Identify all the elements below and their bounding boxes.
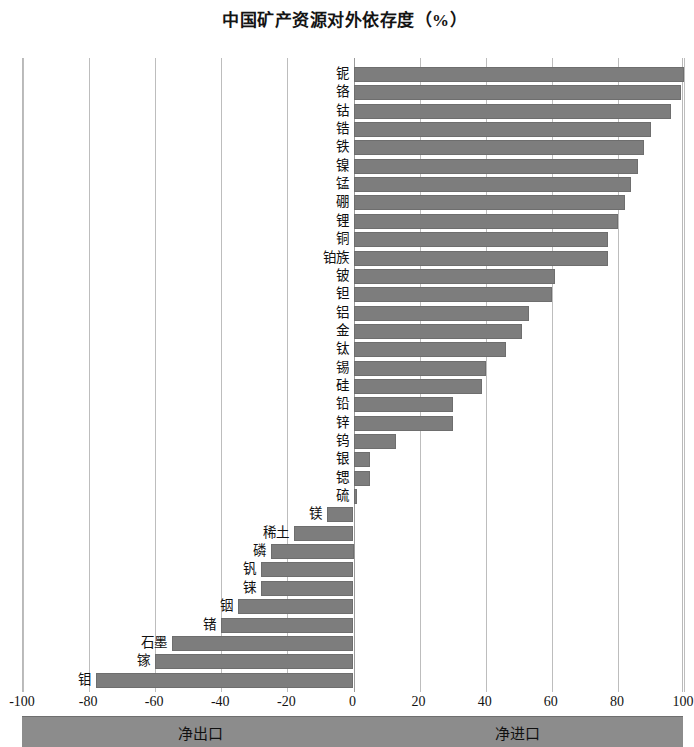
bar-row: 镓 [23, 654, 682, 669]
bar-row: 铜 [23, 232, 682, 247]
category-label: 磷 [253, 541, 266, 560]
bar-row: 钨 [23, 434, 682, 449]
bar [155, 654, 353, 669]
bar [354, 140, 645, 155]
x-axis-tick: -80 [79, 694, 98, 710]
bar [354, 122, 651, 137]
x-axis-tick: 80 [610, 694, 624, 710]
bar-row: 钒 [23, 562, 682, 577]
bar [354, 361, 486, 376]
category-label: 锶 [336, 468, 349, 487]
plot-area: 铌铬钴锆铁镍锰硼锂铜铂族铍钽铝金钛锡硅铅锌钨银锶硫镁稀土磷钒铼铟锗石墨镓钼 [22, 58, 683, 692]
category-label: 锆 [336, 119, 349, 138]
category-label: 铝 [336, 303, 349, 322]
category-label: 石墨 [141, 633, 167, 652]
bar-row: 铂族 [23, 251, 682, 266]
bar [354, 452, 371, 467]
bar-row: 钼 [23, 673, 682, 688]
bar [354, 397, 453, 412]
bar-row: 石墨 [23, 636, 682, 651]
bar-row: 铼 [23, 581, 682, 596]
bar-row: 铬 [23, 85, 682, 100]
x-axis-tick: 0 [349, 694, 356, 710]
bar [354, 434, 397, 449]
bar [354, 471, 371, 486]
bar-row: 硅 [23, 379, 682, 394]
category-label: 铬 [336, 82, 349, 101]
category-label: 银 [336, 449, 349, 468]
category-label: 钛 [336, 339, 349, 358]
category-label: 钨 [336, 431, 349, 450]
bar-row: 银 [23, 452, 682, 467]
category-label: 铼 [243, 578, 256, 597]
bar [354, 67, 685, 82]
bar-row: 铁 [23, 140, 682, 155]
bar [354, 489, 357, 504]
bar-row: 锆 [23, 122, 682, 137]
bar [327, 507, 353, 522]
category-label: 稀土 [263, 523, 289, 542]
bar-row: 锰 [23, 177, 682, 192]
x-axis-tick: -20 [277, 694, 296, 710]
bar [271, 544, 354, 559]
bar-row: 硫 [23, 489, 682, 504]
category-label: 镍 [336, 156, 349, 175]
category-label: 钒 [243, 559, 256, 578]
category-label: 硅 [336, 376, 349, 395]
bar [354, 287, 552, 302]
category-label: 铍 [336, 266, 349, 285]
bar-row: 磷 [23, 544, 682, 559]
bar-row: 铌 [23, 67, 682, 82]
bar [354, 306, 529, 321]
bar [221, 618, 353, 633]
bar [354, 85, 681, 100]
category-label: 铟 [220, 596, 233, 615]
bar-row: 锗 [23, 618, 682, 633]
bar [354, 214, 618, 229]
bar-row: 锌 [23, 416, 682, 431]
bar [354, 195, 625, 210]
bar [261, 581, 354, 596]
bar [354, 104, 671, 119]
bar-row: 锂 [23, 214, 682, 229]
x-axis-tick: 20 [412, 694, 426, 710]
x-axis-tick: 60 [544, 694, 558, 710]
bar-rows: 铌铬钴锆铁镍锰硼锂铜铂族铍钽铝金钛锡硅铅锌钨银锶硫镁稀土磷钒铼铟锗石墨镓钼 [23, 58, 682, 692]
net-import-label: 净进口 [495, 722, 540, 743]
bar-row: 铅 [23, 397, 682, 412]
x-axis-tick: 40 [478, 694, 492, 710]
bar [354, 232, 608, 247]
bar [354, 379, 483, 394]
chart-title: 中国矿产资源对外依存度（%） [0, 6, 689, 31]
category-label: 硫 [336, 486, 349, 505]
category-label: 铅 [336, 394, 349, 413]
x-axis-tick: -60 [145, 694, 164, 710]
category-label: 钴 [336, 101, 349, 120]
category-label: 钽 [336, 284, 349, 303]
bar [354, 251, 608, 266]
category-label: 镁 [309, 504, 322, 523]
category-label: 锡 [336, 358, 349, 377]
bar [354, 416, 453, 431]
bar [294, 526, 353, 541]
category-label: 铌 [336, 64, 349, 83]
category-label: 钼 [78, 670, 91, 689]
bar-row: 铍 [23, 269, 682, 284]
category-label: 锌 [336, 413, 349, 432]
bar [238, 599, 354, 614]
bar-row: 锡 [23, 361, 682, 376]
bar-row: 硼 [23, 195, 682, 210]
category-label: 铂族 [323, 248, 349, 267]
bar [354, 177, 632, 192]
category-label: 铜 [336, 229, 349, 248]
bar-row: 钴 [23, 104, 682, 119]
bar [354, 342, 506, 357]
category-label: 锰 [336, 174, 349, 193]
net-export-label: 净出口 [178, 722, 223, 743]
category-label: 锂 [336, 211, 349, 230]
bar-row: 锶 [23, 471, 682, 486]
bar-row: 镁 [23, 507, 682, 522]
x-axis: -100-80-60-40-20020406080100 [0, 694, 689, 716]
bar [354, 324, 523, 339]
